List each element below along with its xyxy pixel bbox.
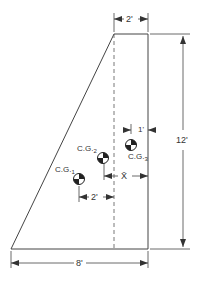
cg3-offset-label: 1' (138, 125, 144, 134)
base-width-label: 8' (76, 258, 83, 268)
cg1-offset-label: 2' (91, 192, 98, 202)
cg2-label: C.G.2 (77, 144, 97, 154)
cg1-symbol (74, 174, 85, 185)
cg3-label: C.G.3 (128, 152, 148, 162)
height-label: 12' (176, 135, 188, 145)
cg2-symbol (98, 153, 109, 164)
top-width-label: 2' (126, 14, 133, 24)
cg3-symbol (126, 140, 137, 151)
centroid-diagram: 2' 12' 8' 1' X̄ 2' C.G.1 (0, 0, 202, 282)
cg1-label: C.G.1 (55, 165, 75, 175)
xbar-label: X̄ (121, 171, 127, 181)
